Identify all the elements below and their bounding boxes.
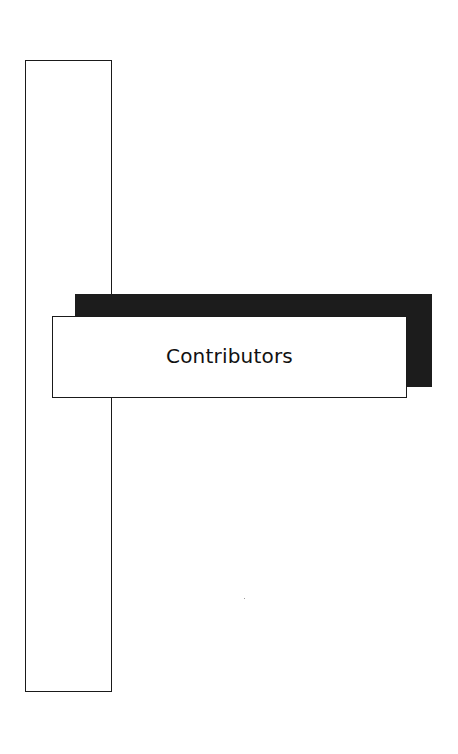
title-box: Contributors: [52, 316, 407, 398]
page-title: Contributors: [166, 344, 293, 368]
speck: [244, 598, 245, 599]
